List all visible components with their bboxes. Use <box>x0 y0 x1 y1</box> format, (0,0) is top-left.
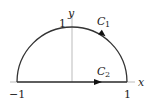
label-c1: C 1 <box>97 15 110 29</box>
arrow-c1-icon <box>98 30 107 39</box>
tick-x-left: −1 <box>9 88 25 101</box>
arrow-c2-icon <box>94 79 102 85</box>
contour-diagram: y 1 x −1 1 C 1 C 2 <box>0 0 153 105</box>
svg-text:2: 2 <box>105 70 110 79</box>
y-axis-label: y <box>67 7 75 20</box>
tick-y-top: 1 <box>59 17 66 30</box>
x-axis-label: x <box>138 76 145 89</box>
svg-text:1: 1 <box>105 20 110 29</box>
label-c2: C 2 <box>97 65 110 79</box>
tick-x-right: 1 <box>124 88 131 101</box>
